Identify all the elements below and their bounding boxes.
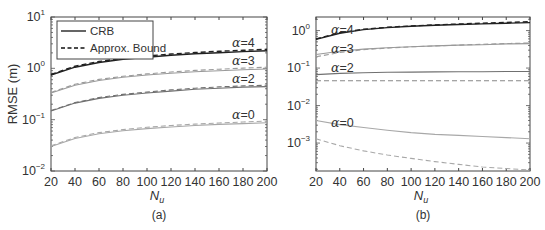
alpha0-label-a: α=0 [232, 107, 255, 122]
figure: 2040608010012014016018020010110010−110−2… [0, 0, 545, 230]
x-tick-label: 100 [401, 175, 422, 189]
y-tick-label: 100 [292, 22, 311, 38]
legend-crb-label: CRB [90, 25, 115, 37]
x-tick-label: 140 [448, 175, 469, 189]
x-tick-label: 20 [309, 175, 323, 189]
alpha3-label-b: α=3 [331, 41, 354, 56]
x-tick-label: 80 [380, 175, 394, 189]
caption-b: (b) [416, 208, 431, 222]
y-tick-label: 101 [27, 8, 46, 24]
y-tick-label: 10−2 [287, 97, 311, 113]
alpha0-label-b: α=0 [331, 115, 354, 130]
x-tick-label: 100 [137, 175, 158, 189]
x-tick-label: 200 [257, 175, 278, 189]
caption-a: (a) [152, 208, 167, 222]
y-tick-label: 100 [27, 59, 46, 75]
x-tick-label: 20 [44, 175, 58, 189]
alpha4-label-b: α=4 [331, 22, 354, 37]
y-tick-label: 10−1 [22, 111, 46, 127]
x-tick-label: 200 [520, 175, 541, 189]
panel-a: 2040608010012014016018020010110010−110−2… [5, 8, 277, 222]
x-tick-label: 40 [333, 175, 347, 189]
x-tick-label: 160 [472, 175, 493, 189]
x-tick-label: 180 [496, 175, 517, 189]
alpha4-label-a: α=4 [232, 35, 255, 50]
legend-approx-label: Approx. Bound [90, 42, 166, 54]
x-tick-label: 60 [92, 175, 106, 189]
y-tick-label: 10−1 [287, 59, 311, 75]
x-tick-label: 140 [185, 175, 206, 189]
x-tick-label: 120 [424, 175, 445, 189]
x-axis-title-a: Nu [150, 188, 164, 205]
figure-canvas: 2040608010012014016018020010110010−110−2… [0, 0, 545, 230]
panel-b: 2040608010012014016018020010010−110−210−… [287, 17, 541, 222]
x-tick-label: 180 [233, 175, 254, 189]
x-axis-title-b: Nu [414, 188, 428, 205]
alpha2-label-a: α=2 [232, 71, 255, 86]
x-tick-label: 160 [209, 175, 230, 189]
alpha3-label-a: α=3 [232, 53, 255, 68]
y-axis-title-a: RMSE (m) [5, 64, 20, 125]
y-tick-label: 10−2 [22, 162, 46, 178]
x-tick-label: 60 [357, 175, 371, 189]
y-tick-label: 10−3 [287, 134, 311, 150]
alpha2-label-b: α=2 [331, 60, 354, 75]
x-tick-label: 40 [68, 175, 82, 189]
legend: CRB Approx. Bound [57, 21, 166, 59]
x-tick-label: 80 [116, 175, 130, 189]
x-tick-label: 120 [161, 175, 182, 189]
